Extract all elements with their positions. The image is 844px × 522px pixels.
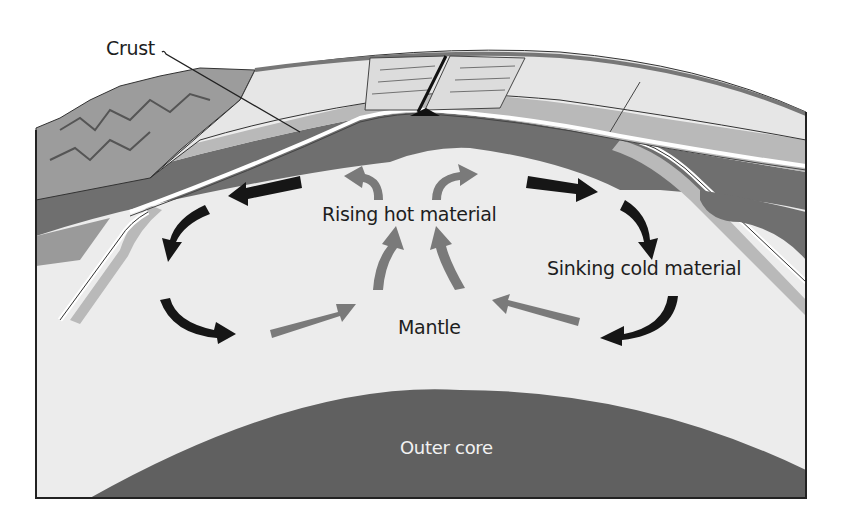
- label-crust: Crust: [106, 37, 155, 59]
- label-rising-hot-material: Rising hot material: [322, 203, 497, 225]
- label-mantle: Mantle: [398, 316, 461, 338]
- label-sinking-cold-material: Sinking cold material: [547, 257, 741, 279]
- label-outer-core: Outer core: [400, 437, 493, 458]
